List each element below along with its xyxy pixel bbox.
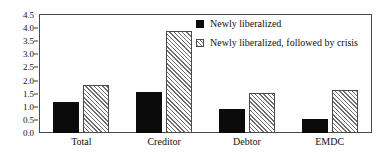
- y-tick-label: 1.0: [23, 102, 34, 111]
- legend-swatch-icon: [196, 20, 204, 28]
- y-tick-mark: [34, 119, 38, 120]
- x-tick-label: EMDC: [288, 136, 371, 156]
- y-axis-labels: 0.00.51.01.52.02.53.03.54.04.5: [0, 0, 34, 160]
- chart-legend: Newly liberalizedNewly liberalized, foll…: [196, 18, 364, 56]
- legend-item: Newly liberalized: [196, 18, 364, 30]
- legend-label: Newly liberalized: [210, 18, 281, 30]
- bar: [219, 109, 245, 133]
- x-tick-label: Creditor: [123, 136, 206, 156]
- x-tick-label: Debtor: [206, 136, 289, 156]
- bar: [136, 92, 162, 133]
- y-tick-mark: [34, 106, 38, 107]
- legend-item: Newly liberalized, followed by crisis: [196, 37, 364, 49]
- y-tick-label: 4.0: [23, 24, 34, 33]
- y-tick-label: 2.0: [23, 76, 34, 85]
- bar: [83, 85, 109, 133]
- y-tick-mark: [34, 67, 38, 68]
- y-tick-label: 3.5: [23, 37, 34, 46]
- legend-swatch-icon: [196, 39, 204, 47]
- bar: [302, 119, 328, 133]
- y-tick-mark: [34, 93, 38, 94]
- y-tick-mark: [34, 80, 38, 81]
- bar: [249, 93, 275, 133]
- y-tick-mark: [34, 54, 38, 55]
- bar-group: [123, 15, 206, 133]
- x-tick-label: Total: [40, 136, 123, 156]
- bar: [166, 31, 192, 133]
- y-tick-label: 1.5: [23, 89, 34, 98]
- y-tick-mark: [34, 28, 38, 29]
- bar: [53, 102, 79, 133]
- y-tick-mark: [34, 41, 38, 42]
- bar-group: [40, 15, 123, 133]
- y-tick-label: 2.5: [23, 63, 34, 72]
- y-tick-label: 4.5: [23, 11, 34, 20]
- y-tick-label: 3.0: [23, 50, 34, 59]
- legend-label: Newly liberalized, followed by crisis: [210, 37, 358, 49]
- bar-chart: 0.00.51.01.52.02.53.03.54.04.5 TotalCred…: [0, 0, 380, 160]
- bar: [332, 90, 358, 133]
- y-tick-label: 0.0: [23, 129, 34, 138]
- y-tick-label: 0.5: [23, 115, 34, 124]
- x-axis-labels: TotalCreditorDebtorEMDC: [40, 136, 371, 156]
